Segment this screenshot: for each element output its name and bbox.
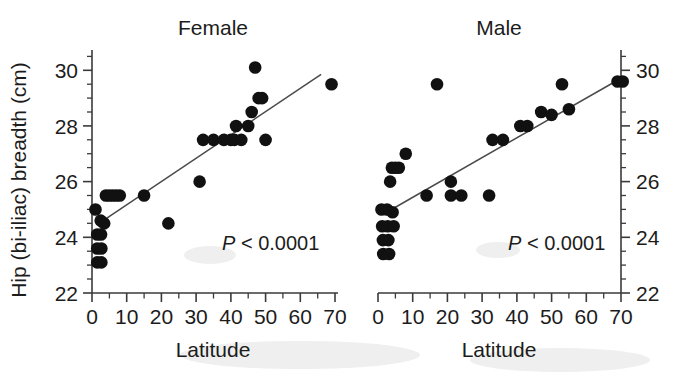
data-point (556, 78, 569, 91)
data-point (563, 103, 576, 116)
data-point (497, 134, 510, 147)
data-point (521, 120, 534, 133)
data-point (230, 120, 243, 133)
data-point (193, 175, 206, 188)
x-tick-label: 30 (184, 305, 207, 328)
x-tick-label: 60 (289, 305, 312, 328)
regression-line-female (103, 74, 321, 220)
y-ticks-major-male (621, 70, 630, 293)
data-point (89, 203, 102, 216)
x-tick-label: 40 (505, 305, 528, 328)
x-tick-label: 40 (219, 305, 242, 328)
data-point (445, 175, 458, 188)
data-point (235, 134, 248, 147)
data-point (242, 120, 255, 133)
x-tick-label: 30 (470, 305, 493, 328)
x-tick-label: 70 (323, 305, 346, 328)
x-tick-label: 50 (254, 305, 277, 328)
x-tick-label: 50 (540, 305, 563, 328)
data-point (399, 148, 412, 161)
data-point (545, 109, 558, 122)
data-point (384, 175, 397, 188)
data-point (386, 206, 399, 219)
p-symbol: P (222, 232, 236, 254)
x-ticks-minor-male (395, 293, 603, 299)
data-point (162, 217, 175, 230)
x-axis-title-male: Latitude (462, 338, 537, 361)
x-tick-label: 60 (575, 305, 598, 328)
x-tick-labels-male: 0 10 20 30 40 50 60 70 (372, 305, 633, 328)
y-tick-label: 24 (636, 226, 660, 249)
data-point (393, 161, 406, 174)
data-point (113, 189, 126, 202)
data-point (138, 189, 151, 202)
x-tick-label: 20 (150, 305, 173, 328)
y-ticks-major-female (83, 70, 92, 293)
data-point (483, 189, 496, 202)
data-point (256, 92, 269, 105)
panel-title-female: Female (178, 16, 248, 39)
x-tick-labels-female: 0 10 20 30 40 50 60 70 (86, 305, 347, 328)
y-tick-labels-female: 30 28 26 24 22 (55, 59, 79, 305)
y-tick-label: 24 (55, 226, 79, 249)
x-ticks-minor-female (109, 293, 317, 299)
x-tick-label: 70 (609, 305, 632, 328)
y-tick-label: 26 (55, 170, 78, 193)
data-point (455, 189, 468, 202)
y-tick-label: 22 (636, 282, 659, 305)
data-point (382, 234, 395, 247)
figure-container: Hip (bi-iliac) breadth (cm) Female (0, 0, 693, 385)
p-value-text: < 0.0001 (235, 232, 319, 254)
data-point (431, 78, 444, 91)
y-tick-label: 28 (55, 115, 78, 138)
data-point (387, 220, 400, 233)
x-tick-label: 20 (436, 305, 459, 328)
y-tick-label: 22 (55, 282, 78, 305)
panel-male: Male (372, 16, 660, 361)
y-tick-label: 30 (55, 59, 78, 82)
data-point (95, 242, 108, 255)
x-axis-title-female: Latitude (176, 338, 251, 361)
data-point (616, 75, 629, 88)
data-point (383, 248, 396, 261)
p-value-annotation-female: P < 0.0001 (222, 232, 319, 254)
data-point (95, 256, 108, 269)
x-tick-label: 10 (115, 305, 138, 328)
data-point (259, 134, 272, 147)
x-tick-label: 10 (401, 305, 424, 328)
p-value-annotation-male: P < 0.0001 (508, 232, 605, 254)
data-point (95, 228, 108, 241)
p-symbol: P (508, 232, 522, 254)
data-point (325, 78, 338, 91)
data-point (420, 189, 433, 202)
data-point (98, 217, 111, 230)
y-tick-label: 30 (636, 59, 659, 82)
panel-female: Female (55, 16, 347, 361)
x-tick-label: 0 (372, 305, 384, 328)
data-point (245, 106, 258, 119)
p-value-text: < 0.0001 (521, 232, 605, 254)
data-point (249, 61, 262, 74)
x-tick-label: 0 (86, 305, 98, 328)
y-tick-label: 26 (636, 170, 659, 193)
y-tick-label: 28 (636, 115, 659, 138)
scatter-plot-figure: Hip (bi-iliac) breadth (cm) Female (0, 0, 693, 385)
panel-title-male: Male (476, 16, 522, 39)
y-axis-title: Hip (bi-iliac) breadth (cm) (7, 62, 30, 298)
y-tick-labels-male: 30 28 26 24 22 (636, 59, 660, 305)
